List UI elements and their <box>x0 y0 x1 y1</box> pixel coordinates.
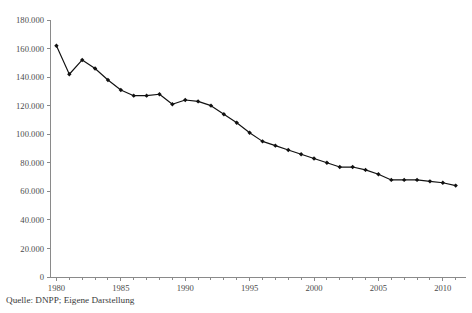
x-tick-label: 2000 <box>305 283 322 293</box>
y-tick-label: 0 <box>40 272 44 282</box>
y-tick-label: 120.000 <box>16 101 44 111</box>
y-tick-label: 100.000 <box>16 129 44 139</box>
x-tick-label: 1980 <box>48 283 65 293</box>
x-tick-label: 1990 <box>177 283 194 293</box>
series-data-point <box>54 44 58 48</box>
series-data-point <box>144 93 148 97</box>
y-tick-label: 140.000 <box>16 72 44 82</box>
line-chart: 020.00040.00060.00080.000100.000120.0001… <box>0 0 472 313</box>
x-tick-label: 1995 <box>241 283 258 293</box>
series-data-point <box>453 183 457 187</box>
y-tick-label: 20.000 <box>20 244 44 254</box>
series-data-point <box>183 98 187 102</box>
series-data-point <box>402 178 406 182</box>
series-data-point <box>299 152 303 156</box>
y-tick-label: 180.000 <box>16 15 44 25</box>
series-data-point <box>273 143 277 147</box>
series-data-point <box>325 161 329 165</box>
series-line <box>56 46 455 186</box>
y-tick-label: 60.000 <box>20 186 44 196</box>
series-data-point <box>441 181 445 185</box>
x-tick-label: 1985 <box>112 283 129 293</box>
series-data-point <box>286 148 290 152</box>
series-data-point <box>338 165 342 169</box>
series-data-point <box>415 178 419 182</box>
x-tick-label: 2010 <box>434 283 451 293</box>
series-data-point <box>132 93 136 97</box>
series-data-point <box>312 156 316 160</box>
y-tick-label: 160.000 <box>16 44 44 54</box>
series-data-point <box>428 179 432 183</box>
y-tick-label: 40.000 <box>20 215 44 225</box>
series-data-point <box>350 165 354 169</box>
series-data-point <box>196 99 200 103</box>
x-tick-label: 2005 <box>370 283 387 293</box>
series-data-point <box>363 168 367 172</box>
series-data-point <box>389 178 393 182</box>
series-data-point <box>376 172 380 176</box>
chart-container: 020.00040.00060.00080.000100.000120.0001… <box>0 0 472 313</box>
y-tick-label: 80.000 <box>20 158 44 168</box>
source-caption: Quelle: DNPP; Eigene Darstellung <box>6 295 134 305</box>
